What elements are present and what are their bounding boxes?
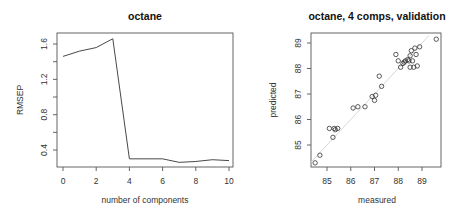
validation-y-label: predicted (268, 82, 278, 117)
data-point (394, 52, 398, 56)
x-tick-label: 89 (417, 176, 427, 186)
reference-line (310, 35, 429, 163)
y-tick-label: 87 (293, 89, 303, 99)
validation-plot-title: octane, 4 comps, validation (308, 10, 445, 22)
x-tick-label: 8 (193, 176, 198, 186)
x-tick-label: 2 (94, 176, 99, 186)
validation-plot-frame (311, 33, 441, 167)
x-tick-label: 6 (160, 176, 165, 186)
data-point (318, 153, 322, 157)
rmsep-plot: octane 0246810 0.40.81.21.6 number of co… (15, 10, 234, 205)
x-tick-label: 86 (346, 176, 356, 186)
x-tick-label: 87 (370, 176, 380, 186)
validation-x-label: measured (358, 195, 396, 205)
data-point (434, 37, 438, 41)
x-tick-label: 0 (61, 176, 66, 186)
data-point (351, 106, 355, 110)
rmsep-x-label: number of components (102, 195, 189, 205)
validation-x-axis: 8586878889 (322, 167, 427, 186)
rmsep-line (63, 39, 229, 163)
rmsep-x-axis: 0246810 (61, 167, 234, 186)
data-point (356, 105, 360, 109)
y-tick-label: 0.4 (39, 144, 49, 156)
x-tick-label: 10 (224, 176, 234, 186)
rmsep-y-label: RMSEP (15, 85, 25, 116)
data-point (414, 52, 418, 56)
y-tick-label: 1.6 (39, 38, 49, 50)
figure: octane 0246810 0.40.81.21.6 number of co… (0, 0, 458, 216)
y-tick-label: 85 (293, 140, 303, 150)
y-tick-label: 88 (293, 64, 303, 74)
data-point (363, 105, 367, 109)
rmsep-plot-frame (57, 33, 233, 167)
data-point (413, 46, 417, 50)
validation-y-axis: 8586878889 (293, 38, 311, 150)
x-tick-label: 88 (394, 176, 404, 186)
data-point (377, 74, 381, 78)
y-tick-label: 86 (293, 115, 303, 125)
rmsep-y-axis: 0.40.81.21.6 (39, 38, 57, 156)
data-point (327, 126, 331, 130)
y-tick-label: 0.8 (39, 109, 49, 121)
y-tick-label: 89 (293, 38, 303, 48)
validation-points (313, 37, 439, 165)
validation-plot: octane, 4 comps, validation 8586878889 8… (268, 10, 446, 205)
data-point (313, 161, 317, 165)
x-tick-label: 4 (127, 176, 132, 186)
data-point (396, 59, 400, 63)
y-tick-label: 1.2 (39, 73, 49, 85)
data-point (372, 98, 376, 102)
rmsep-plot-title: octane (128, 10, 162, 22)
x-tick-label: 85 (322, 176, 332, 186)
